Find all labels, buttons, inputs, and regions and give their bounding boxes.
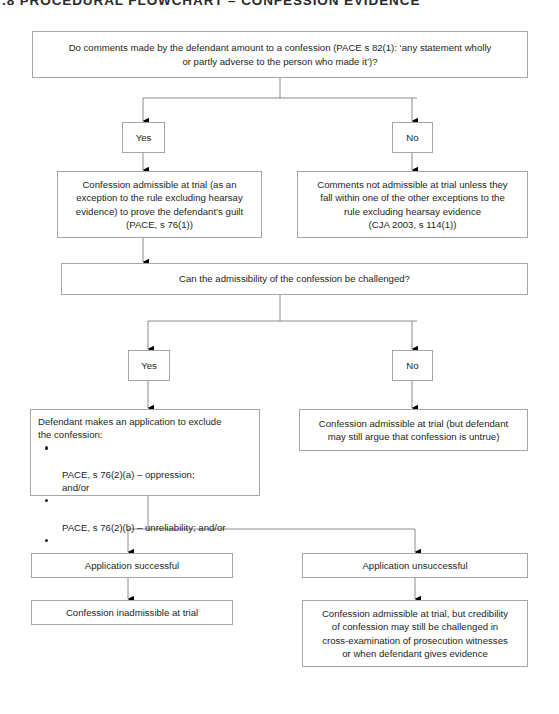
node-no-2: No xyxy=(392,350,433,381)
node-application-unsuccessful: Application unsuccessful xyxy=(302,553,528,578)
node-yes-1: Yes xyxy=(122,122,165,153)
application-lead-text: Defendant makes an application to exclud… xyxy=(38,415,253,441)
node-question-confession: Do comments made by the defendant amount… xyxy=(32,31,528,78)
node-question-admissibility-challenged: Can the admissibility of the confession … xyxy=(61,263,528,295)
node-no-1: No xyxy=(392,122,433,153)
list-item: PACE, s 76(2)(a) – oppression; and/or xyxy=(42,441,253,494)
node-application-successful: Application successful xyxy=(31,553,233,578)
bullet-dot-icon xyxy=(45,499,48,502)
node-comments-not-admissible: Comments not admissible at trial unless … xyxy=(297,171,528,238)
list-item: PACE, s 76(2)(b) – unreliability; and/or xyxy=(42,494,253,534)
application-ground-text: PACE, s 76(2)(a) – oppression; and/or xyxy=(62,469,195,493)
node-confession-inadmissible: Confession inadmissible at trial xyxy=(31,600,233,625)
flowchart-canvas: Do comments made by the defendant amount… xyxy=(0,0,559,714)
node-yes-2: Yes xyxy=(128,350,170,381)
application-ground-text: PACE, s 76(2)(b) – unreliability; and/or xyxy=(62,522,226,533)
node-confession-admissible-but-untrue: Confession admissible at trial (but defe… xyxy=(299,409,528,451)
node-confession-credibility-challenged: Confession admissible at trial, but cred… xyxy=(302,600,528,667)
node-confession-admissible-trial: Confession admissible at trial (as an ex… xyxy=(57,171,262,238)
bullet-dot-icon xyxy=(45,446,48,449)
node-defendant-application: Defendant makes an application to exclud… xyxy=(30,409,260,496)
bullet-dot-icon xyxy=(45,539,48,542)
flowchart-page: .8 PROCEDURAL FLOWCHART – CONFESSION EVI… xyxy=(0,0,559,714)
